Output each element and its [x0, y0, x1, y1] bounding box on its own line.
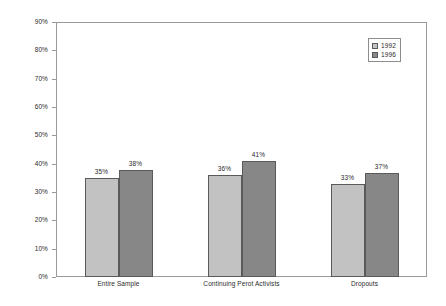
- bar-1992-dropouts[interactable]: 33%: [331, 184, 365, 277]
- y-axis-tick-mark: [52, 50, 56, 51]
- legend-item-label: 1996: [381, 50, 396, 59]
- bar-value-label: 37%: [375, 163, 388, 170]
- y-axis-tick-label: 30%: [35, 187, 48, 196]
- legend-swatch-icon: [372, 43, 378, 49]
- bar-1992-entire-sample[interactable]: 35%: [85, 178, 119, 277]
- y-axis-tick-mark: [52, 249, 56, 250]
- bar-1996-continuing-perot-activists[interactable]: 41%: [242, 161, 276, 277]
- x-axis-label: Dropouts: [303, 280, 426, 287]
- legend-item-1996[interactable]: 1996: [372, 50, 396, 59]
- x-axis: Entire SampleContinuing Perot ActivistsD…: [57, 280, 426, 298]
- y-axis-tick-label: 20%: [35, 215, 48, 224]
- y-axis-tick-mark: [52, 277, 56, 278]
- bar-1992-continuing-perot-activists[interactable]: 36%: [208, 175, 242, 277]
- y-axis-tick-mark: [52, 135, 56, 136]
- y-axis-tick-mark: [52, 22, 56, 23]
- legend-item-label: 1992: [381, 41, 396, 50]
- bar-value-label: 38%: [129, 160, 142, 167]
- legend-item-1992[interactable]: 1992: [372, 41, 396, 50]
- y-axis: 0%10%20%30%40%50%60%70%80%90%: [0, 22, 56, 278]
- y-axis-tick-mark: [52, 220, 56, 221]
- bar-1996-entire-sample[interactable]: 38%: [119, 170, 153, 277]
- bar-group: 36%41%: [208, 23, 276, 277]
- y-axis-tick-mark: [52, 79, 56, 80]
- y-axis-tick-mark: [52, 192, 56, 193]
- y-axis-tick-mark: [52, 164, 56, 165]
- y-axis-tick-label: 40%: [35, 159, 48, 168]
- bar-value-label: 35%: [95, 168, 108, 175]
- y-axis-tick-label: 50%: [35, 130, 48, 139]
- x-axis-label: Continuing Perot Activists: [180, 280, 303, 287]
- bar-value-label: 41%: [252, 151, 265, 158]
- y-axis-tick-label: 60%: [35, 102, 48, 111]
- y-axis-tick-label: 80%: [35, 45, 48, 54]
- y-axis-tick-label: 0%: [38, 272, 48, 281]
- bar-chart: 0%10%20%30%40%50%60%70%80%90% 35%38%36%4…: [0, 0, 446, 306]
- y-axis-tick-mark: [52, 107, 56, 108]
- legend-swatch-icon: [372, 52, 378, 58]
- y-axis-tick-label: 10%: [35, 244, 48, 253]
- y-axis-tick-label: 90%: [35, 17, 48, 26]
- bar-1996-dropouts[interactable]: 37%: [365, 173, 399, 277]
- y-axis-tick-label: 70%: [35, 74, 48, 83]
- legend: 19921996: [368, 38, 401, 62]
- x-axis-label: Entire Sample: [57, 280, 180, 287]
- bar-value-label: 36%: [218, 165, 231, 172]
- bar-value-label: 33%: [341, 174, 354, 181]
- bar-group: 35%38%: [85, 23, 153, 277]
